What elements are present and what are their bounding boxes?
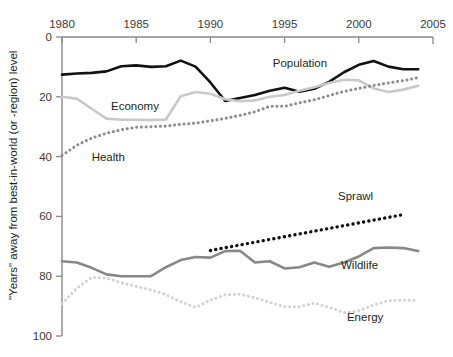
y-axis-tick-label: 100 [33,330,52,342]
series-label-sprawl: Sprawl [338,190,373,202]
x-axis-tick-label: 1995 [272,18,298,30]
series-label-population: Population [273,57,327,69]
y-axis-tick-label: 0 [46,31,52,43]
x-axis-tick-label: 1980 [49,18,75,30]
x-axis-tick-label: 2005 [420,18,446,30]
line-chart: "Years" away from best-in-world (or -reg… [0,0,453,357]
series-label-wildlife: Wildlife [341,259,378,271]
y-axis-tick-label: 80 [39,270,52,282]
y-axis-tick-label: 40 [39,151,52,163]
x-axis-tick-label: 1990 [198,18,224,30]
series-label-economy: Economy [111,100,159,112]
series-label-health: Health [92,151,125,163]
x-axis-tick-label: 1985 [123,18,149,30]
y-axis-title: "Years" away from best-in-world (or -reg… [7,51,19,300]
y-axis-tick-label: 20 [39,91,52,103]
series-label-energy: Energy [347,311,384,323]
x-axis-tick-label: 2000 [346,18,372,30]
chart-container: "Years" away from best-in-world (or -reg… [0,0,453,357]
y-axis-title-group: "Years" away from best-in-world (or -reg… [7,51,19,300]
chart-background [0,0,453,357]
y-axis-tick-label: 60 [39,210,52,222]
